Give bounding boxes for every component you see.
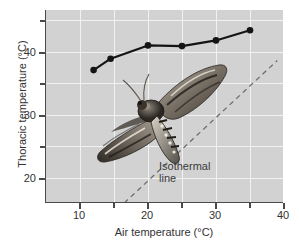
- xtick-label-20: 20: [132, 209, 162, 221]
- data-point: [107, 55, 114, 62]
- xtick-25: [181, 203, 183, 208]
- isothermal-label-line1: Isothermal: [159, 160, 210, 172]
- xtick-label-30: 30: [200, 209, 230, 221]
- ytick-20: [39, 178, 45, 180]
- chart-figure: Isothermal line 10 20 30 40 Air temperat…: [0, 0, 299, 249]
- ytick-30: [39, 115, 45, 117]
- data-point: [213, 37, 220, 44]
- ytick-25: [40, 146, 45, 148]
- data-point: [179, 43, 186, 50]
- ytick-45: [40, 20, 45, 22]
- ytick-35: [40, 83, 45, 85]
- y-axis-title: Thoracic temperature (°C): [16, 19, 28, 189]
- xtick-35: [249, 203, 251, 208]
- xtick-label-10: 10: [64, 209, 94, 221]
- data-point: [145, 42, 152, 49]
- x-axis-title: Air temperature (°C): [45, 226, 283, 238]
- xtick-15: [113, 203, 115, 208]
- isothermal-line-annotation: Isothermal line: [159, 160, 210, 184]
- xtick-label-40: 40: [268, 209, 298, 221]
- data-point: [90, 67, 97, 74]
- ytick-40: [39, 52, 45, 54]
- plot-area: Isothermal line: [45, 10, 283, 203]
- data-point: [247, 27, 254, 34]
- isothermal-label-line2: line: [159, 172, 210, 184]
